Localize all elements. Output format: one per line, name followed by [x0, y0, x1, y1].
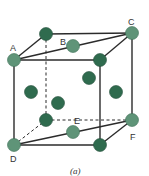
label-F: F [130, 132, 136, 142]
atom-corner-A [8, 54, 21, 67]
atom-back-face-center [83, 72, 96, 85]
label-B: B [60, 37, 66, 47]
face-atoms [25, 72, 123, 110]
label-E: E [74, 116, 80, 126]
atom-corner-bottom-back-left-E [40, 114, 53, 127]
atom-left-face-center [25, 86, 38, 99]
label-D: D [10, 154, 17, 164]
fcc-unit-cell-diagram: A B C D E F (a) [0, 0, 149, 176]
atom-corner-F [126, 114, 139, 127]
atom-top-face-center-B [67, 40, 80, 53]
atom-right-face-center [110, 86, 123, 99]
atom-corner-top-front-right [94, 54, 107, 67]
label-C: C [128, 17, 135, 27]
atom-corner-top-back-left [40, 28, 53, 41]
atom-corner-C [126, 27, 139, 40]
figure-caption: (a) [70, 166, 81, 176]
label-A: A [10, 43, 16, 53]
atom-bottom-face-center [67, 126, 80, 139]
atom-corner-bottom-front-right [94, 139, 107, 152]
edge-top-back [46, 33, 132, 34]
atom-corner-D [8, 139, 21, 152]
atom-front-face-center [52, 97, 65, 110]
